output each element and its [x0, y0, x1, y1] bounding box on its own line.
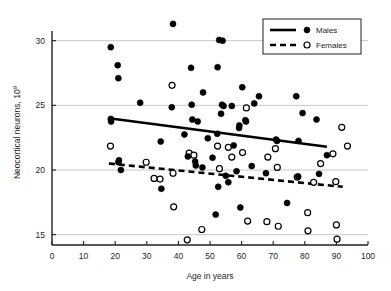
data-point: [239, 84, 245, 90]
x-axis-title: Age in years: [186, 271, 233, 281]
y-tick-label: 15: [36, 230, 46, 240]
data-point: [275, 223, 281, 229]
data-point: [330, 151, 336, 157]
data-point: [158, 139, 164, 145]
data-point: [215, 143, 221, 149]
data-point: [316, 171, 322, 177]
axis-titles: Age in yearsNeocortical neurons, 109: [12, 85, 234, 281]
data-point: [249, 163, 255, 169]
data-point: [293, 93, 299, 99]
data-point: [334, 236, 340, 242]
data-point: [243, 105, 249, 111]
data-point: [344, 143, 350, 149]
data-point: [170, 21, 176, 27]
data-point: [108, 44, 114, 50]
data-point: [215, 64, 221, 70]
x-tick-label: 80: [300, 251, 310, 261]
x-tick-label: 10: [79, 251, 89, 261]
data-point: [184, 237, 190, 243]
data-point: [324, 152, 330, 158]
data-point: [256, 93, 262, 99]
x-tick-label: 0: [50, 251, 55, 261]
data-point: [108, 119, 114, 125]
data-point: [188, 65, 194, 71]
data-point: [210, 155, 216, 161]
data-point: [274, 164, 280, 170]
legend-marker: [304, 42, 310, 48]
data-point: [339, 124, 345, 130]
data-point: [118, 167, 124, 173]
legend-marker: [304, 27, 310, 33]
data-point: [181, 131, 187, 137]
legend-label: Females: [316, 41, 347, 50]
data-point: [229, 154, 235, 160]
data-point: [264, 219, 270, 225]
data-point: [237, 205, 243, 211]
data-point: [185, 153, 191, 159]
data-point: [170, 170, 176, 176]
data-point: [265, 154, 271, 160]
data-point: [115, 62, 121, 68]
x-tick-label: 40: [174, 251, 184, 261]
data-point: [333, 179, 339, 185]
data-point: [205, 135, 211, 141]
data-point: [318, 161, 324, 167]
data-point: [158, 186, 164, 192]
data-point: [223, 173, 229, 179]
data-point: [313, 117, 319, 123]
data-point: [274, 138, 280, 144]
data-point: [214, 131, 220, 137]
data-point: [231, 142, 237, 148]
data-point: [229, 103, 235, 109]
data-point: [200, 89, 206, 95]
y-axis-tick-labels: 15202530: [36, 36, 46, 240]
data-point: [199, 164, 205, 170]
data-point: [107, 143, 113, 149]
data-point: [189, 102, 195, 108]
data-point: [295, 138, 301, 144]
data-point: [169, 82, 175, 88]
data-point: [213, 212, 219, 218]
y-tick-label: 20: [36, 165, 46, 175]
data-point: [195, 119, 201, 125]
data-point: [225, 179, 231, 185]
chart-figure: 0102030405060708090100 15202530 Age in y…: [0, 0, 391, 291]
x-tick-label: 30: [142, 251, 152, 261]
data-point: [218, 111, 224, 117]
chart-legend: MalesFemales: [263, 19, 361, 54]
data-point: [169, 104, 175, 110]
x-tick-label: 20: [110, 251, 120, 261]
scatter-plot: 0102030405060708090100 15202530 Age in y…: [0, 0, 391, 291]
y-axis-title: Neocortical neurons, 109: [12, 85, 22, 179]
data-point: [300, 110, 306, 116]
data-point: [199, 226, 205, 232]
data-point: [240, 150, 246, 156]
data-point: [251, 100, 257, 106]
data-point: [272, 146, 278, 152]
data-point: [263, 170, 269, 176]
data-point: [116, 157, 122, 163]
x-axis-tick-labels: 0102030405060708090100: [50, 251, 376, 261]
data-point: [171, 204, 177, 210]
data-point: [243, 119, 249, 125]
data-point: [311, 179, 317, 185]
legend-label: Males: [316, 26, 337, 35]
data-point: [216, 166, 222, 172]
y-tick-label: 30: [36, 36, 46, 46]
data-point: [220, 38, 226, 44]
data-point: [236, 122, 242, 128]
data-point: [215, 184, 221, 190]
data-point: [284, 200, 290, 206]
data-point: [305, 210, 311, 216]
data-point: [305, 228, 311, 234]
data-point: [234, 168, 240, 174]
data-point: [245, 218, 251, 224]
svg-text:Neocortical neurons, 109: Neocortical neurons, 109: [12, 85, 22, 179]
x-tick-label: 70: [268, 251, 278, 261]
data-point: [295, 173, 301, 179]
data-point: [333, 222, 339, 228]
data-point: [115, 75, 121, 81]
data-point: [137, 100, 143, 106]
x-tick-label: 100: [361, 251, 375, 261]
data-point: [143, 159, 149, 165]
